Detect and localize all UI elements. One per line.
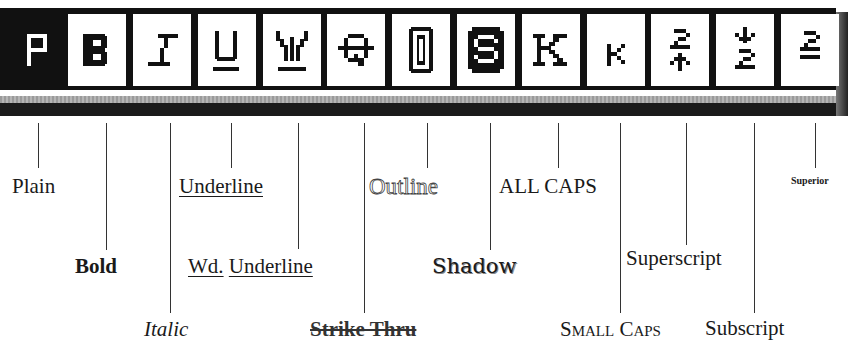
plain-label: Plain xyxy=(12,176,55,197)
all-caps-style-button[interactable] xyxy=(522,14,580,86)
bold-style-button[interactable] xyxy=(68,14,126,86)
wd-word: Wd. xyxy=(188,254,224,278)
small-caps-label: Small Caps xyxy=(560,319,661,340)
shadow-style-button[interactable] xyxy=(457,14,515,86)
superscript-icon xyxy=(662,25,698,75)
strike-thru-leader-line xyxy=(364,123,365,313)
underline-style-button[interactable] xyxy=(198,14,256,86)
superscript-leader-line xyxy=(686,123,687,245)
plain-leader-line xyxy=(38,123,39,168)
small-caps-leader-line xyxy=(620,123,621,313)
plain-style-button[interactable] xyxy=(9,14,67,86)
underline-u-icon xyxy=(209,25,245,75)
all-caps-label: ALL CAPS xyxy=(499,176,597,197)
wd-underline-word: Underline xyxy=(229,254,313,278)
shadow-leader-line xyxy=(490,123,491,250)
bold-b-icon xyxy=(79,28,115,72)
outline-style-button[interactable] xyxy=(392,14,450,86)
small-caps-k-icon xyxy=(601,28,631,72)
italic-i-icon xyxy=(144,28,180,72)
shadow-label: Shadow xyxy=(432,256,517,277)
superscript-style-button[interactable] xyxy=(651,14,709,86)
plain-p-icon xyxy=(23,28,53,72)
small-caps-style-button[interactable] xyxy=(587,14,645,86)
wd-underline-leader-line xyxy=(298,123,299,249)
subscript-style-button[interactable] xyxy=(716,14,774,86)
italic-label: Italic xyxy=(144,319,188,340)
strike-thru-style-button[interactable] xyxy=(327,14,385,86)
toolbar-bottom-band xyxy=(0,103,848,116)
italic-style-button[interactable] xyxy=(133,14,191,86)
shadow-s-icon xyxy=(464,25,508,75)
superior-label: Superior xyxy=(791,176,829,186)
bold-label: Bold xyxy=(75,256,117,277)
all-caps-leader-line xyxy=(558,123,559,168)
word-underline-w-icon xyxy=(272,25,312,75)
subscript-label: Subscript xyxy=(705,318,784,339)
word-underline-style-button[interactable] xyxy=(263,14,321,86)
subscript-icon xyxy=(727,25,763,75)
subscript-leader-line xyxy=(754,123,755,313)
outline-label: Outline xyxy=(369,175,438,198)
superior-style-button[interactable] xyxy=(781,14,839,86)
underline-leader-line xyxy=(231,123,232,168)
all-caps-k-icon xyxy=(531,28,571,72)
superscript-label: Superscript xyxy=(626,248,722,269)
superior-leader-line xyxy=(815,123,816,168)
underline-label: Underline xyxy=(179,176,263,197)
strike-thru-label: Strike Thru xyxy=(310,319,416,340)
outline-leader-line xyxy=(427,123,428,168)
italic-leader-line xyxy=(170,123,171,313)
bold-leader-line xyxy=(106,123,107,250)
strike-thru-q-icon xyxy=(336,28,376,72)
toolbar-gray-band xyxy=(0,96,848,103)
outline-o-icon xyxy=(401,25,441,75)
wd-underline-label: Wd. Underline xyxy=(188,256,313,277)
superior-icon xyxy=(792,25,828,75)
